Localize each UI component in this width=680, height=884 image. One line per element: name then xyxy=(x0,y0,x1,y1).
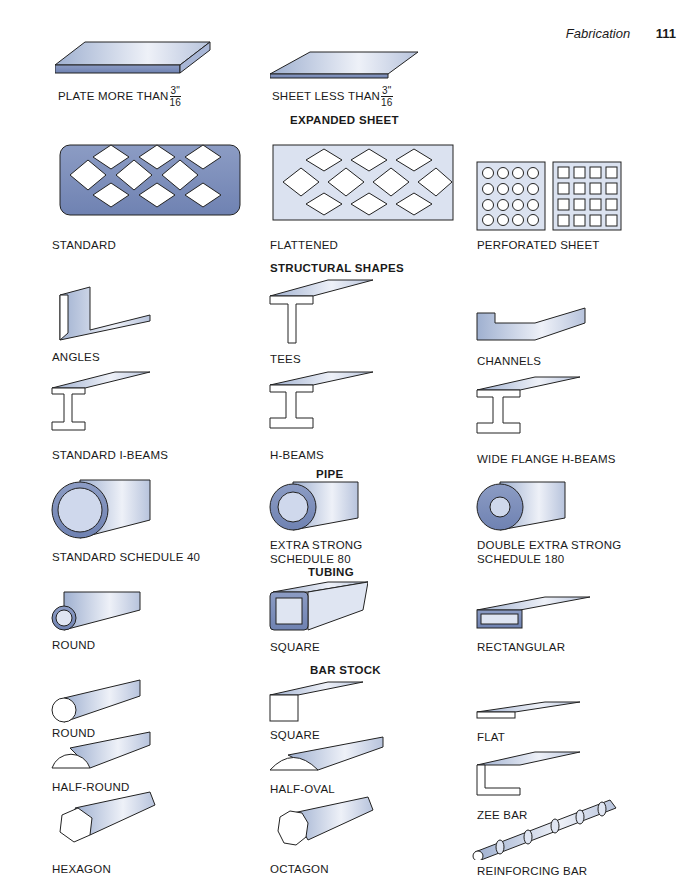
hbeams-illustration xyxy=(268,370,378,440)
standard-ibeams-illustration xyxy=(50,370,160,440)
page-header: Fabrication 111 xyxy=(566,26,676,41)
label-wide-flange: WIDE FLANGE H-BEAMS xyxy=(477,452,616,466)
tube-rectangular-illustration xyxy=(475,595,595,640)
expanded-standard-illustration xyxy=(50,135,250,230)
bar-half-oval-illustration xyxy=(268,735,388,780)
label-rebar: REINFORCING BAR xyxy=(477,864,587,878)
bar-square-illustration xyxy=(268,680,368,725)
label-sheet: SHEET LESS THAN3"16 xyxy=(272,85,393,108)
label-tees: TEES xyxy=(270,352,301,366)
section-expanded-sheet: EXPANDED SHEET xyxy=(290,114,399,126)
label-octagon: OCTAGON xyxy=(270,862,329,876)
pipe-schedule180-illustration xyxy=(475,480,575,535)
label-schedule180: DOUBLE EXTRA STRONGSCHEDULE 180 xyxy=(477,538,621,566)
plate-illustration xyxy=(55,40,215,80)
section-tubing: TUBING xyxy=(308,566,354,578)
label-schedule40: STANDARD SCHEDULE 40 xyxy=(52,550,200,564)
tube-square-illustration xyxy=(268,580,368,635)
bar-half-round-illustration xyxy=(50,730,160,775)
label-plate: PLATE MORE THAN3"16 xyxy=(58,85,181,108)
label-tube-round: ROUND xyxy=(52,638,95,652)
bar-octagon-illustration xyxy=(268,795,378,855)
label-perforated: PERFORATED SHEET xyxy=(477,238,599,252)
label-channels: CHANNELS xyxy=(477,354,541,368)
section-pipe: PIPE xyxy=(316,468,343,480)
pipe-schedule80-illustration xyxy=(268,480,368,535)
tees-illustration xyxy=(268,278,378,348)
section-title: Fabrication xyxy=(566,26,630,41)
label-half-oval: HALF-OVAL xyxy=(270,782,335,796)
label-bar-flat: FLAT xyxy=(477,730,505,744)
label-hexagon: HEXAGON xyxy=(52,862,111,876)
label-tube-rect: RECTANGULAR xyxy=(477,640,565,654)
perforated-sheet-illustration xyxy=(475,160,635,232)
label-standard-ibeams: STANDARD I-BEAMS xyxy=(52,448,168,462)
pipe-schedule40-illustration xyxy=(50,478,170,543)
page-number: 111 xyxy=(656,26,676,41)
section-structural-shapes: STRUCTURAL SHAPES xyxy=(270,262,404,274)
label-standard: STANDARD xyxy=(52,238,116,252)
angles-illustration xyxy=(50,285,160,345)
label-angles: ANGLES xyxy=(52,350,100,364)
expanded-flattened-illustration xyxy=(268,140,458,230)
channels-illustration xyxy=(475,298,595,348)
tube-round-illustration xyxy=(50,590,150,635)
label-hbeams: H-BEAMS xyxy=(270,448,324,462)
label-tube-square: SQUARE xyxy=(270,640,320,654)
bar-hexagon-illustration xyxy=(50,790,160,850)
label-flattened: FLATTENED xyxy=(270,238,338,252)
label-schedule80: EXTRA STRONGSCHEDULE 80 xyxy=(270,538,363,566)
rebar-illustration xyxy=(470,790,620,860)
bar-flat-illustration xyxy=(475,700,585,725)
wide-flange-illustration xyxy=(475,375,585,445)
bar-round-illustration xyxy=(50,678,150,728)
section-bar-stock: BAR STOCK xyxy=(310,664,381,676)
sheet-illustration xyxy=(270,50,420,80)
